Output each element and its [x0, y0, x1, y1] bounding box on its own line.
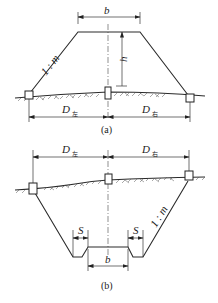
stake-center-b: [105, 174, 112, 184]
label-b-a: b: [104, 4, 110, 16]
stake-center-a: [105, 87, 111, 99]
label-d-right-sub-a: 右: [152, 110, 158, 118]
label-s-right: S: [133, 224, 139, 236]
label-d-left-a: D: [61, 103, 70, 115]
label-d-left-b: D: [61, 143, 70, 155]
label-slope-a: 1 : m: [38, 52, 61, 77]
label-s-left: S: [78, 224, 84, 236]
label-d-right-sub-b: 右: [152, 150, 158, 158]
ground-hatch-a: [18, 93, 165, 101]
panel-a-embankment: b h 1 : m D 左 D 右 (a): [15, 4, 205, 136]
cross-section-diagram: b h 1 : m D 左 D 右 (a) D 左 D 右: [0, 0, 218, 303]
label-d-left-sub-a: 左: [72, 110, 78, 117]
stake-left-a: [25, 91, 33, 99]
cutting-outline: [35, 181, 188, 257]
stake-left-b: [29, 183, 37, 194]
label-slope-b: 1 : m: [148, 203, 170, 229]
stake-right-b: [185, 171, 193, 180]
label-d-right-a: D: [141, 103, 150, 115]
caption-a: (a): [101, 124, 112, 136]
panel-b-cutting: D 左 D 右 S S 1 : m b (b): [15, 143, 205, 292]
caption-b: (b): [101, 280, 113, 292]
label-d-left-sub-b: 左: [72, 150, 78, 157]
label-b-b: b: [105, 253, 111, 265]
label-d-right-b: D: [141, 143, 150, 155]
stake-right-a: [186, 94, 194, 102]
label-h: h: [117, 56, 129, 62]
